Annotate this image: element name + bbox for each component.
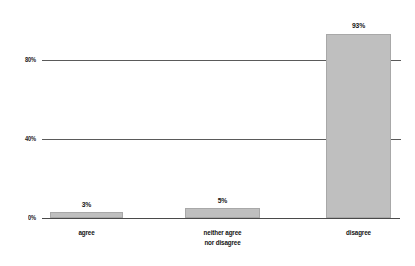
right-tick-80 [392, 60, 401, 61]
bar-value-agree: 3% [54, 200, 120, 209]
ytick-label-40: 40% [6, 135, 36, 142]
category-label-neither-line1: neither agree [182, 228, 262, 238]
category-label-neither-agree-nor-disagree: neither agree nor disagree [182, 228, 262, 248]
category-label-disagree: disagree [318, 228, 398, 238]
axis-baseline-0 [42, 218, 400, 219]
category-label-disagree-line1: disagree [318, 228, 398, 238]
right-tick-40 [392, 139, 401, 140]
bar-neither-agree-nor-disagree[interactable] [185, 208, 260, 218]
bar-value-disagree: 93% [329, 21, 388, 30]
bar-chart: 80% 40% 0% 3% agree 5% neither agree nor… [0, 0, 415, 266]
bar-agree[interactable] [50, 212, 123, 218]
ytick-label-80: 80% [6, 56, 36, 63]
category-label-agree: agree [46, 228, 126, 238]
category-label-neither-line2: nor disagree [182, 238, 262, 248]
ytick-label-0: 0% [6, 214, 36, 221]
category-label-agree-line1: agree [46, 228, 126, 238]
bar-disagree[interactable] [326, 34, 391, 218]
bar-value-neither-agree-nor-disagree: 5% [189, 196, 257, 205]
